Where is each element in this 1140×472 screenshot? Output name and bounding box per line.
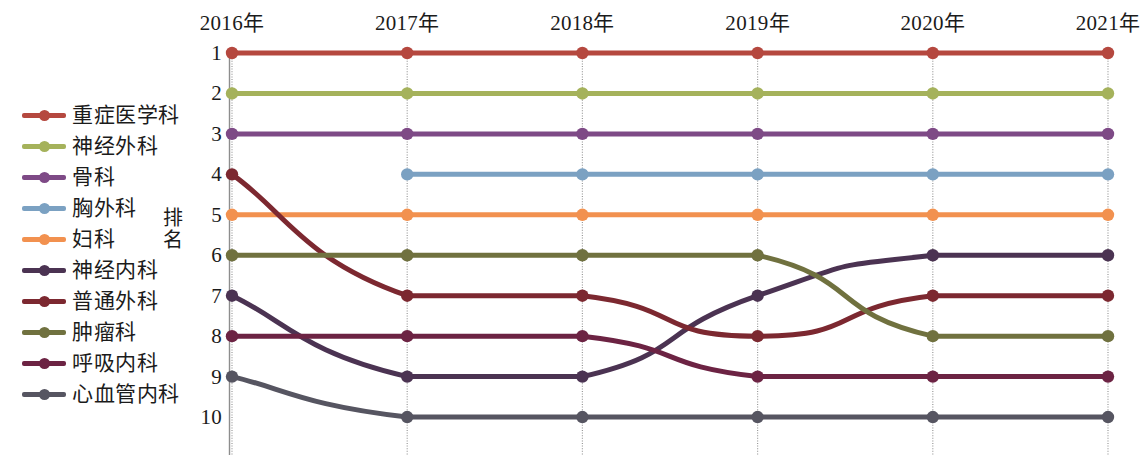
data-point-5 [1102, 411, 1114, 423]
data-point-0 [226, 370, 238, 382]
data-point-5 [1102, 249, 1114, 261]
data-point-0 [226, 249, 238, 261]
data-point-3 [751, 87, 763, 99]
data-point-3 [751, 128, 763, 140]
data-point-5 [1102, 290, 1114, 302]
data-point-3 [751, 370, 763, 382]
data-point-1 [401, 290, 413, 302]
data-point-1 [401, 128, 413, 140]
y-tick-label-1: 2 [211, 81, 222, 106]
data-point-1 [401, 330, 413, 342]
data-point-0 [226, 87, 238, 99]
x-tick-label-5: 2021年 [1076, 6, 1140, 36]
data-point-5 [1102, 47, 1114, 59]
data-point-2 [576, 370, 588, 382]
data-point-0 [401, 168, 413, 180]
x-tick-label-4: 2020年 [901, 6, 966, 36]
data-point-5 [1102, 209, 1114, 221]
data-point-5 [1102, 370, 1114, 382]
data-point-4 [927, 87, 939, 99]
data-point-1 [576, 168, 588, 180]
series-line [232, 377, 1108, 417]
y-tick-label-0: 1 [211, 41, 222, 66]
data-point-2 [576, 290, 588, 302]
x-tick-label-1: 2017年 [375, 6, 440, 36]
y-tick-label-9: 10 [200, 405, 222, 430]
data-point-0 [226, 128, 238, 140]
data-point-3 [751, 411, 763, 423]
y-tick-label-2: 3 [211, 121, 222, 146]
data-point-2 [576, 411, 588, 423]
data-point-0 [226, 209, 238, 221]
data-point-0 [226, 47, 238, 59]
x-tick-label-3: 2019年 [725, 6, 790, 36]
y-tick-label-4: 5 [211, 202, 222, 227]
y-tick-label-3: 4 [211, 162, 222, 187]
y-tick-label-6: 7 [211, 283, 222, 308]
data-point-1 [401, 47, 413, 59]
series-3 [401, 168, 1114, 180]
data-point-3 [751, 47, 763, 59]
y-tick-label-5: 6 [211, 243, 222, 268]
data-point-2 [576, 47, 588, 59]
series-1 [226, 87, 1114, 99]
data-point-0 [226, 168, 238, 180]
data-point-0 [226, 330, 238, 342]
data-point-2 [576, 128, 588, 140]
data-point-4 [927, 370, 939, 382]
data-point-1 [401, 370, 413, 382]
series-2 [226, 128, 1114, 140]
x-tick-label-2: 2018年 [550, 6, 615, 36]
data-point-0 [226, 290, 238, 302]
data-point-4 [1102, 168, 1114, 180]
data-point-1 [401, 411, 413, 423]
data-point-4 [927, 47, 939, 59]
data-point-1 [401, 209, 413, 221]
y-axis-title: 排名 [157, 207, 186, 251]
data-point-3 [751, 209, 763, 221]
data-point-3 [751, 249, 763, 261]
data-point-5 [1102, 330, 1114, 342]
series-5 [226, 249, 1114, 383]
data-point-5 [1102, 128, 1114, 140]
data-point-1 [401, 87, 413, 99]
data-point-2 [576, 249, 588, 261]
data-point-3 [751, 290, 763, 302]
data-point-1 [401, 249, 413, 261]
data-point-2 [751, 168, 763, 180]
series-4 [226, 209, 1114, 221]
data-point-4 [927, 249, 939, 261]
data-point-5 [1102, 87, 1114, 99]
y-tick-label-7: 8 [211, 324, 222, 349]
series-0 [226, 47, 1114, 59]
data-point-2 [576, 330, 588, 342]
data-point-3 [751, 330, 763, 342]
x-tick-label-0: 2016年 [200, 6, 265, 36]
data-point-4 [927, 290, 939, 302]
data-point-4 [927, 411, 939, 423]
data-point-2 [576, 87, 588, 99]
y-tick-label-8: 9 [211, 364, 222, 389]
data-point-4 [927, 330, 939, 342]
data-point-4 [927, 128, 939, 140]
data-point-2 [576, 209, 588, 221]
data-point-4 [927, 209, 939, 221]
data-point-3 [927, 168, 939, 180]
